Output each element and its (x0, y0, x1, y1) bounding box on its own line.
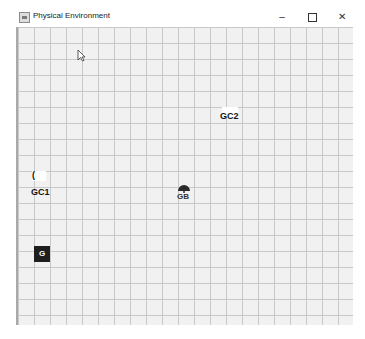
minimize-button[interactable]: – (273, 9, 291, 25)
physical-environment-window: Physical Environment – ✕ GC2 ( GC1 GB G (15, 6, 352, 326)
mouse-pointer-icon (77, 49, 86, 62)
gc1-label: GC1 (31, 187, 50, 197)
maximize-button[interactable] (303, 9, 321, 25)
g-tile[interactable]: G (34, 246, 50, 262)
gb-label: GB (177, 192, 189, 201)
gc1-glyph: ( (32, 170, 35, 180)
close-button[interactable]: ✕ (333, 9, 351, 25)
maximize-icon (308, 13, 317, 22)
gc2-label: GC2 (220, 111, 239, 121)
java-app-icon (19, 12, 30, 23)
title-bar[interactable]: Physical Environment – ✕ (15, 6, 352, 27)
environment-grid-canvas[interactable]: GC2 ( GC1 GB G (16, 27, 353, 325)
window-title: Physical Environment (33, 11, 110, 20)
